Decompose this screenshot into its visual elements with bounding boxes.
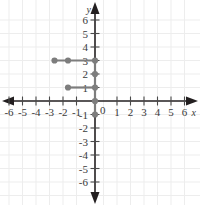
y-tick-label: -2: [79, 122, 88, 134]
y-tick-label: 4: [83, 41, 89, 53]
x-tick-label: 3: [141, 106, 147, 118]
y-axis-arrow-up: [91, 2, 100, 14]
x-tick-label: 2: [128, 106, 134, 118]
y-tick-label: -6: [79, 176, 89, 188]
data-point: [92, 57, 98, 63]
x-tick-label: 4: [155, 106, 161, 118]
x-tick-label: -5: [18, 106, 28, 118]
y-tick-label: -5: [79, 163, 89, 175]
data-point: [92, 111, 98, 117]
y-tick-label: -1: [79, 109, 88, 121]
x-axis-label: x: [191, 107, 197, 118]
x-tick-label: -2: [58, 106, 67, 118]
data-point: [92, 71, 98, 77]
y-tick-label: 6: [83, 14, 89, 26]
y-tick-label: -4: [79, 149, 89, 161]
data-point: [65, 57, 71, 63]
graph-canvas: -6 -5 -4 -3 -2 -1 1 2 3 4 5 6 6 5 4 3 2 …: [0, 0, 200, 205]
x-tick-label: 5: [168, 106, 174, 118]
x-axis-arrow-left: [2, 97, 14, 106]
x-tick-label: -4: [31, 106, 41, 118]
data-point: [92, 98, 98, 104]
x-axis-arrow-right: [186, 97, 198, 106]
data-point: [51, 57, 57, 63]
data-point: [92, 84, 98, 90]
y-tick-label: -3: [79, 136, 89, 148]
coordinate-plane-chart: -6 -5 -4 -3 -2 -1 1 2 3 4 5 6 6 5 4 3 2 …: [0, 0, 200, 205]
y-axis-arrow-down: [91, 192, 100, 204]
y-tick-label: 5: [83, 28, 89, 40]
y-tick-label: 2: [83, 68, 89, 80]
grid-lines: [0, 0, 200, 205]
x-tick-label: 6: [182, 106, 188, 118]
x-tick-label: 1: [114, 106, 120, 118]
y-axis-label: y: [86, 4, 92, 15]
origin-label: 0: [100, 104, 106, 116]
data-point: [65, 84, 71, 90]
x-tick-label: -6: [4, 106, 14, 118]
x-tick-label: -3: [45, 106, 55, 118]
